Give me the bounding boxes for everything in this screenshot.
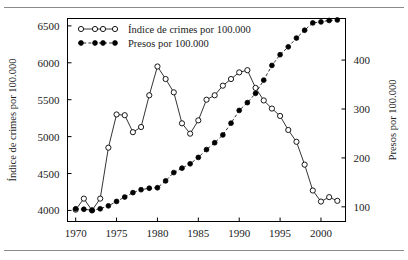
x-tick-label: 1990 [228,227,251,239]
data-point-marker [302,162,307,167]
y-left-tick-label: 5000 [38,131,61,143]
data-point-marker [212,140,217,145]
data-point-marker [294,36,299,41]
legend-marker-0 [100,26,105,31]
data-point-marker [81,207,86,212]
data-point-marker [302,28,307,33]
data-point-marker [106,203,111,208]
data-point-marker [261,98,266,103]
data-point-marker [286,44,291,49]
x-tick-label: 1995 [269,227,292,239]
data-point-marker [179,121,184,126]
data-point-marker [245,100,250,105]
legend-marker-0 [92,26,97,31]
x-tick-label: 1975 [106,227,129,239]
data-point-marker [163,179,168,184]
data-point-marker [106,145,111,150]
y-axis-left-ticks: 400045005000550060006500 [38,20,72,217]
x-tick-label: 2000 [310,227,333,239]
data-point-marker [188,131,193,136]
y-right-tick-label: 200 [354,152,371,164]
y-axis-right-title: Presos por 100.000 [387,80,398,161]
legend-marker-1 [93,41,98,46]
x-tick-label: 1980 [146,227,169,239]
data-point-marker [261,78,266,83]
data-point-marker [335,198,340,203]
y-left-tick-label: 5500 [38,94,61,106]
data-point-marker [327,18,332,23]
y-left-tick-label: 6500 [38,20,61,32]
y-left-tick-label: 4000 [38,204,61,216]
data-point-marker [318,199,323,204]
data-point-marker [131,190,136,195]
data-point-marker [277,113,282,118]
data-point-marker [310,188,315,193]
data-point-marker [98,206,103,211]
data-point-marker [155,185,160,190]
data-point-marker [171,90,176,95]
data-point-marker [188,161,193,166]
y-right-tick-label: 300 [354,103,371,115]
data-point-marker [147,93,152,98]
data-point-marker [212,93,217,98]
data-point-marker [294,139,299,144]
data-point-marker [270,63,275,68]
legend-marker-1 [113,41,118,46]
data-point-marker [310,21,315,26]
x-tick-label: 1970 [65,227,88,239]
legend-marker-0 [112,26,117,31]
legend-marker-1 [79,41,84,46]
data-point-marker [253,91,258,96]
data-point-marker [114,112,119,117]
data-point-marker [114,199,119,204]
data-point-marker [147,186,152,191]
legend-marker-0 [78,26,83,31]
data-point-marker [196,118,201,123]
data-point-marker [278,52,283,57]
data-point-marker [196,155,201,160]
data-point-marker [155,64,160,69]
legend-label-0: Índice de crimes por 100.000 [128,24,251,35]
data-point-marker [237,108,242,113]
data-point-marker [229,121,234,126]
data-point-marker [269,106,274,111]
data-point-marker [81,196,86,201]
data-point-marker [319,20,324,25]
data-point-marker [228,76,233,81]
data-point-marker [335,18,340,23]
data-point-marker [139,187,144,192]
data-point-marker [204,147,209,152]
data-point-marker [98,196,103,201]
y-right-tick-label: 100 [354,201,371,213]
data-point-marker [122,195,127,200]
chart-figure: 1970197519801985199019952000 40004500500… [0,0,408,260]
data-point-marker [171,170,176,175]
chart-canvas: 1970197519801985199019952000 40004500500… [0,0,408,260]
data-point-marker [220,133,225,138]
data-point-marker [122,113,127,118]
data-point-marker [204,97,209,102]
data-point-marker [327,195,332,200]
data-point-marker [245,68,250,73]
data-point-marker [286,127,291,132]
legend-label-1: Presos por 100.000 [128,38,209,49]
data-point-marker [130,130,135,135]
legend-marker-1 [101,41,106,46]
y-left-tick-label: 4500 [38,168,61,180]
data-point-marker [180,166,185,171]
y-axis-left-title: Índice de crimes por 100.000 [7,59,18,182]
data-point-marker [163,76,168,81]
data-point-marker [220,83,225,88]
data-point-marker [90,208,95,213]
data-point-marker [73,206,78,211]
y-left-tick-label: 6000 [38,57,61,69]
data-point-marker [253,85,258,90]
y-right-tick-label: 400 [354,54,371,66]
data-point-marker [138,124,143,129]
data-point-marker [237,70,242,75]
x-tick-label: 1985 [187,227,210,239]
